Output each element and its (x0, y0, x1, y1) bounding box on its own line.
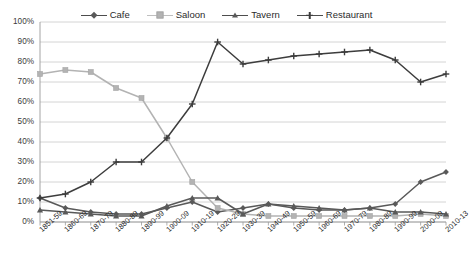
x-axis-tick-label: 1990-99 (393, 209, 419, 234)
x-axis-tick-label: 1950-59 (292, 209, 318, 234)
x-axis-tick-label: 1920-29 (216, 209, 242, 234)
x-axis-tick-label: 2000-09 (419, 209, 445, 234)
x-axis-tick-label: 1860-69 (63, 209, 89, 234)
x-axis-tick-label: 1851-59 (38, 209, 64, 234)
x-axis-tick-label: 1970-79 (343, 209, 369, 234)
x-axis-tick-label: 1960-69 (317, 209, 343, 234)
x-axis-tick-label: 1880-89 (114, 209, 140, 234)
x-axis-tick-label: 1900-09 (165, 209, 191, 234)
x-axis-tick-label: 1940-49 (266, 209, 292, 234)
x-axis-tick-label: 1980-89 (368, 209, 394, 234)
x-axis-tick-label: 1910-19 (190, 209, 216, 234)
x-axis-tick-label: 1870-79 (89, 209, 115, 234)
x-axis-tick-label: 2010-13 (444, 209, 470, 234)
x-axis-tick-label: 1890-99 (140, 209, 166, 234)
x-axis-tick-label: 1930-39 (241, 209, 267, 234)
